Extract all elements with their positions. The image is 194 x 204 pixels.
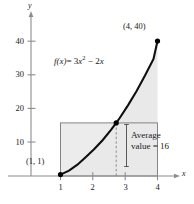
x-axis-arrow xyxy=(174,174,180,179)
x-tick-label-1: 1 xyxy=(54,183,67,192)
average-value-line-1: Average xyxy=(131,130,169,141)
y-tick-label-10: 10 xyxy=(8,138,24,147)
start-point-label: (1, 1) xyxy=(26,157,44,166)
x-axis-label: x xyxy=(182,170,186,178)
function-expression-equals: = 3 xyxy=(67,56,79,66)
function-expression-tail: − 2 xyxy=(86,56,100,66)
mean-value-point-marker xyxy=(114,120,119,125)
function-expression-fx: f(x) xyxy=(54,56,67,66)
average-value-line-2: value = 16 xyxy=(131,141,169,152)
end-point-label: (4, 40) xyxy=(123,22,146,31)
average-value-figure: y x 40 30 20 10 1 2 3 4 (4, 40) (1, 1) f… xyxy=(0,0,194,204)
y-axis-label: y xyxy=(28,2,32,10)
function-expression-var2: x xyxy=(100,56,104,66)
y-tick-label-20: 20 xyxy=(8,104,24,113)
x-tick-label-2: 2 xyxy=(86,183,99,192)
y-tick-label-30: 30 xyxy=(8,70,24,79)
x-tick-label-4: 4 xyxy=(151,183,164,192)
average-value-annotation: Average value = 16 xyxy=(131,130,169,152)
end-point-marker xyxy=(155,38,160,43)
x-tick-label-3: 3 xyxy=(119,183,132,192)
start-point-marker xyxy=(58,172,63,177)
function-expression-label: f(x)= 3x2 − 2x xyxy=(54,57,104,66)
y-tick-label-40: 40 xyxy=(8,37,24,46)
y-axis-arrow xyxy=(29,11,34,17)
chart-canvas xyxy=(0,0,194,204)
